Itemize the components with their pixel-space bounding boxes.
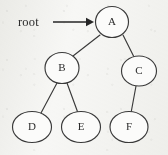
node-c[interactable]: C [122,56,157,86]
node-a[interactable]: A [96,7,129,38]
edge-a-c [123,35,134,57]
edge-b-d [41,83,57,113]
root-pointer-arrow [53,18,94,26]
node-f-label: F [126,120,132,132]
arrow-head-icon [86,18,94,26]
node-f[interactable]: F [110,112,148,143]
nodes-group: ABCDEF [13,7,157,143]
node-b-label: B [58,61,65,73]
tree-graphics: ABCDEF [0,0,168,155]
node-b[interactable]: B [45,53,79,84]
node-c-label: C [135,64,142,76]
node-e-label: E [78,120,85,132]
edge-b-e [67,83,78,113]
node-a-label: A [108,15,116,27]
node-e[interactable]: E [62,112,101,143]
node-d[interactable]: D [13,112,52,143]
edge-c-f [131,86,136,113]
tree-diagram-canvas: root ABCDEF [0,0,168,155]
node-d-label: D [28,120,36,132]
edge-a-b [73,35,100,56]
